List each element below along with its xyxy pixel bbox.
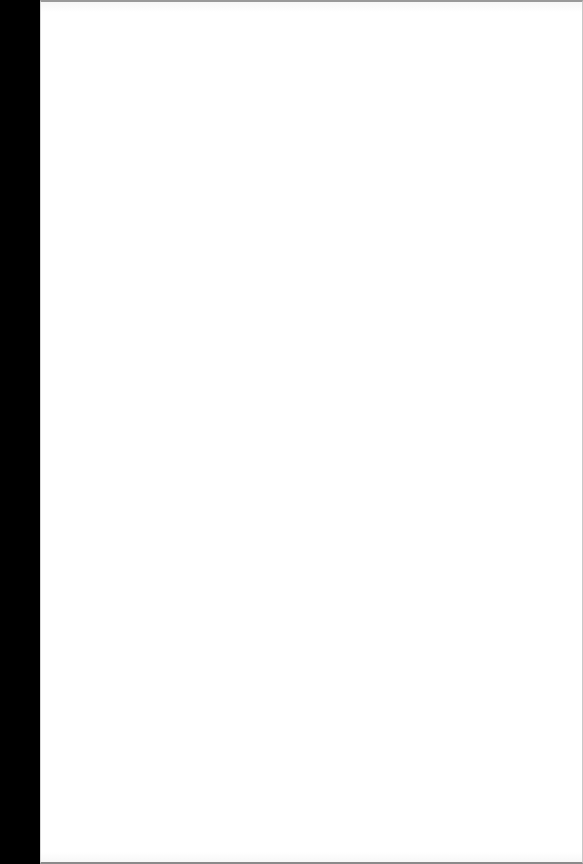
blank-page [40,0,583,864]
left-black-margin [0,0,40,864]
page-surface [41,2,582,862]
